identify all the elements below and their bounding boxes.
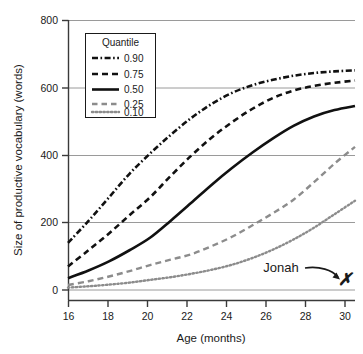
jonah-annotation: Jonah ✗ [263,260,354,289]
x-tick-label-24: 24 [221,310,233,322]
chart-canvas: 800 600 400 200 0 16 18 20 22 24 26 28 3… [0,0,363,354]
legend-label-050: 0.50 [124,84,144,95]
x-tick-label-28: 28 [300,310,312,322]
legend-title: Quantile [102,37,140,48]
x-tick-label-26: 26 [260,310,272,322]
legend-label-075: 0.75 [124,69,144,80]
series-line-025 [68,147,355,285]
series-line-050 [68,106,355,278]
x-tick-label-16: 16 [63,310,75,322]
x-tick-label-22: 22 [181,310,193,322]
y-axis: 800 600 400 200 0 [40,14,68,300]
y-tick-label-600: 600 [40,82,58,94]
quantile-vocabulary-chart: 800 600 400 200 0 16 18 20 22 24 26 28 3… [0,0,363,354]
y-tick-label-0: 0 [52,284,58,296]
x-axis-title: Age (months) [176,332,245,344]
y-tick-label-400: 400 [40,149,58,161]
jonah-arrow-icon [305,267,338,277]
legend-label-010: 0.10 [124,107,144,118]
legend: Quantile 0.90 0.75 0.50 0.25 0.10 [86,34,156,118]
jonah-label: Jonah [263,260,298,275]
legend-label-090: 0.90 [124,53,144,64]
jonah-marker-icon: ✗ [338,270,354,289]
x-axis: 16 18 20 22 24 26 28 30 [63,301,355,323]
x-tick-label-30: 30 [339,310,351,322]
series-line-010 [68,201,355,288]
y-tick-label-800: 800 [40,14,58,26]
x-tick-label-20: 20 [142,310,154,322]
x-tick-label-18: 18 [102,310,114,322]
y-tick-label-200: 200 [40,216,58,228]
y-axis-title: Size of productive vocabulary (words) [12,64,24,256]
